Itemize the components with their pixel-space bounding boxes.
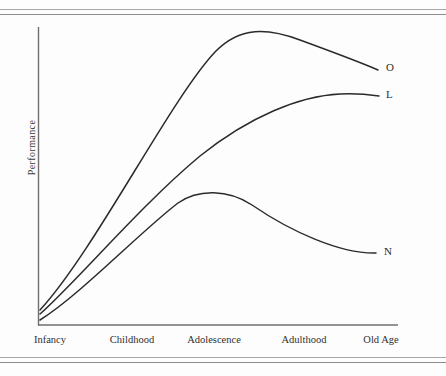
figure-container: Performance Infancy Childhood Adolescenc… bbox=[0, 0, 446, 376]
x-tick-old-age: Old Age bbox=[352, 334, 410, 345]
curve-label-n: N bbox=[384, 245, 392, 257]
curve-label-l: L bbox=[386, 88, 393, 100]
x-tick-adolescence: Adolescence bbox=[176, 334, 252, 345]
y-axis-label: Performance bbox=[26, 103, 37, 193]
curve-label-o: O bbox=[386, 61, 394, 73]
x-tick-childhood: Childhood bbox=[95, 334, 169, 345]
curve-n bbox=[40, 193, 376, 320]
line-chart-plot bbox=[0, 0, 446, 376]
x-tick-infancy: Infancy bbox=[20, 334, 80, 345]
curve-o bbox=[40, 31, 378, 310]
x-tick-adulthood: Adulthood bbox=[268, 334, 340, 345]
curve-l bbox=[40, 94, 379, 314]
